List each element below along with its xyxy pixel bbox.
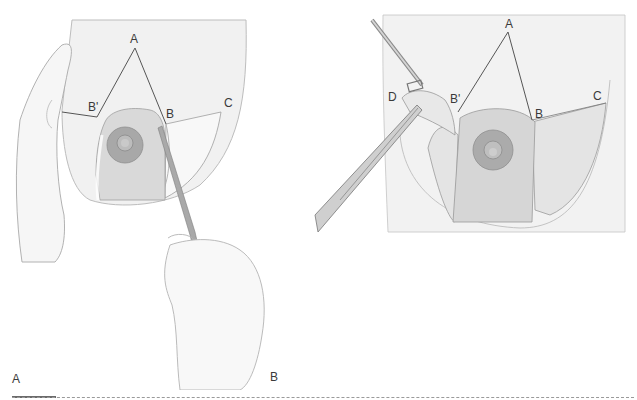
panel-b-drawing: [310, 0, 637, 240]
panel-a-illustration: A B' B C: [0, 0, 310, 390]
label-point-b: B: [535, 108, 543, 120]
panel-b-illustration: A B' B C D: [310, 0, 637, 240]
panel-b-caption: B: [270, 370, 278, 384]
label-point-b: B: [166, 108, 174, 120]
panel-a-caption: A: [12, 372, 20, 386]
label-point-a: A: [130, 33, 138, 45]
panel-a-drawing: [0, 0, 310, 390]
label-point-b-prime: B': [88, 101, 98, 113]
label-point-b-prime: B': [450, 93, 460, 105]
dashed-divider: [12, 397, 634, 398]
label-point-c: C: [593, 90, 602, 102]
label-point-d: D: [388, 91, 397, 103]
label-point-a: A: [505, 18, 513, 30]
label-point-c: C: [224, 97, 233, 109]
